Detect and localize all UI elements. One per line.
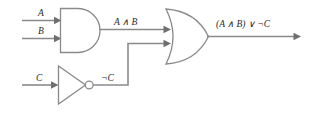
input-label-c: C — [36, 73, 43, 83]
circuit-canvas: A B C A ∧ B ¬C (A ∧ B) ∨ ¬C — [0, 0, 313, 113]
input-label-b: B — [38, 26, 44, 36]
or-gate-symbol — [166, 9, 209, 64]
not-gate-symbol — [59, 66, 94, 104]
input-label-a: A — [37, 8, 44, 18]
wire-label-not-output: ¬C — [101, 73, 114, 83]
and-gate-symbol — [61, 9, 101, 53]
wire-circuit-output — [207, 33, 301, 40]
logic-circuit-diagram: A B C A ∧ B ¬C (A ∧ B) ∨ ¬C — [0, 0, 313, 113]
output-label: (A ∧ B) ∨ ¬C — [216, 19, 271, 30]
wire-label-and-output: A ∧ B — [113, 17, 137, 27]
